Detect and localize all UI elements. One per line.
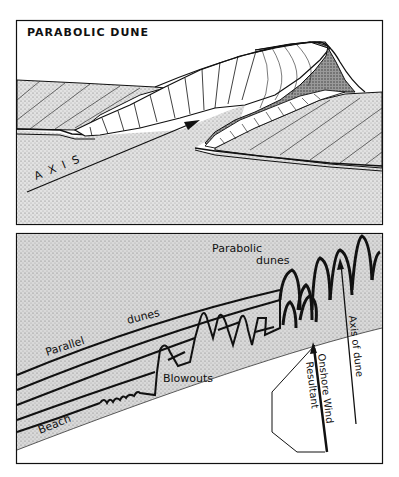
parabolic-dune-panel: PARABOLIC DUNE A X I S (0, 0, 399, 230)
label-blowouts: Blowouts (163, 372, 213, 385)
coastal-dune-map: Parabolic dunes Parallel dunes Blowouts … (0, 228, 399, 477)
coastal-dune-map-panel: Parabolic dunes Parallel dunes Blowouts … (0, 228, 399, 477)
parabolic-dune-illustration: PARABOLIC DUNE A X I S (0, 0, 399, 230)
label-parabolic: Parabolic (212, 242, 262, 255)
panel-title: PARABOLIC DUNE (27, 26, 149, 39)
label-dunes-parabolic: dunes (256, 254, 290, 267)
